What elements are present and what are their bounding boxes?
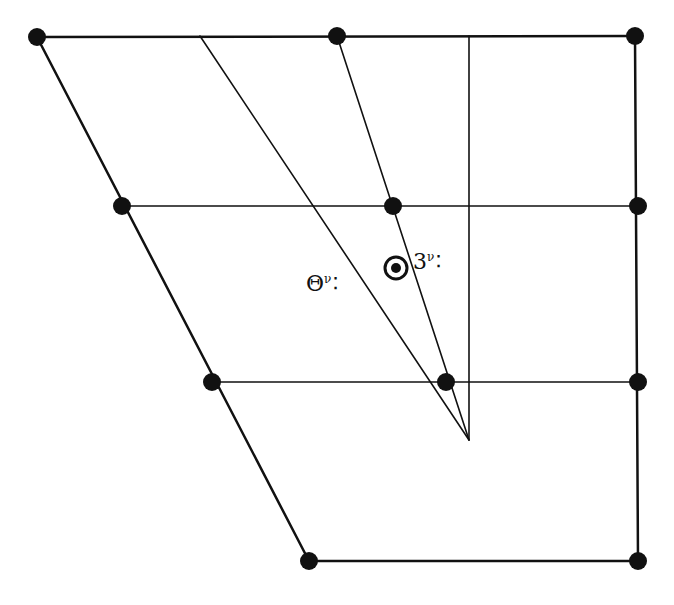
label-right-three: 3ν⁚ (413, 251, 441, 273)
diagram-canvas: Θν⁚ 3ν⁚ (0, 0, 674, 605)
diagram-edge (635, 36, 638, 561)
node-top-mid (328, 27, 346, 45)
label-left-main: Θ (306, 271, 324, 296)
label-left-dots: ⁚ (333, 274, 338, 293)
node-row3-mid (437, 373, 455, 391)
node-row2-mid (384, 197, 402, 215)
geometric-diagram (0, 0, 674, 605)
label-right-dots: ⁚ (436, 252, 441, 271)
diagram-edge (200, 36, 469, 440)
label-right-sup: ν (427, 250, 434, 264)
diagram-edges (37, 36, 638, 561)
target-dot-icon (391, 263, 401, 273)
target-marker-icon (385, 257, 407, 279)
node-row2-right (629, 197, 647, 215)
node-top-right (626, 27, 644, 45)
node-bottom-right (629, 552, 647, 570)
diagram-edge (37, 37, 309, 561)
label-left-theta: Θν⁚ (306, 273, 338, 295)
node-row3-right (629, 373, 647, 391)
label-left-sup: ν (324, 272, 331, 286)
diagram-nodes (28, 27, 647, 570)
label-right-main: 3 (413, 249, 427, 274)
node-row2-left (113, 197, 131, 215)
node-bottom-left (300, 552, 318, 570)
node-top-left (28, 28, 46, 46)
node-row3-left (203, 373, 221, 391)
